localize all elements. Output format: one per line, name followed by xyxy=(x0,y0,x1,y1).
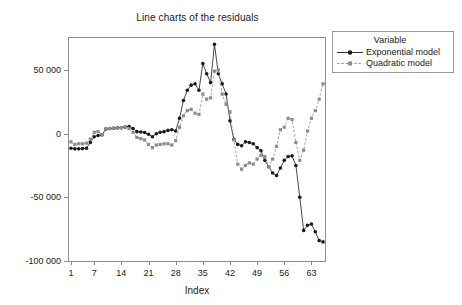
data-point xyxy=(104,128,107,131)
data-point xyxy=(283,126,286,129)
data-point xyxy=(89,138,92,141)
data-point xyxy=(240,168,243,171)
data-point xyxy=(135,130,139,134)
data-point xyxy=(310,222,314,226)
data-point xyxy=(213,43,217,47)
data-point xyxy=(290,154,294,158)
data-point xyxy=(209,96,212,99)
data-point xyxy=(189,83,193,87)
series-1 xyxy=(69,43,325,244)
circle-marker-icon xyxy=(337,48,363,57)
data-point xyxy=(318,98,321,101)
data-point xyxy=(108,127,111,130)
data-point xyxy=(294,141,297,144)
data-point xyxy=(162,130,166,134)
data-point xyxy=(151,135,155,139)
data-point xyxy=(321,82,324,85)
data-point xyxy=(317,239,321,243)
data-point xyxy=(182,99,186,103)
x-tick-mark xyxy=(203,261,204,265)
plot-area xyxy=(68,37,326,262)
data-point xyxy=(170,128,174,132)
data-point xyxy=(73,147,77,151)
x-tick-label: 56 xyxy=(279,268,289,278)
data-point xyxy=(154,132,158,136)
data-point xyxy=(244,140,248,144)
data-point xyxy=(279,166,283,170)
data-point xyxy=(197,88,201,92)
data-point xyxy=(263,155,266,158)
y-tick-mark xyxy=(64,261,68,262)
data-point xyxy=(256,157,259,160)
x-tick-label: 7 xyxy=(92,268,97,278)
x-tick-mark xyxy=(311,261,312,265)
data-point xyxy=(205,72,209,76)
data-point xyxy=(182,114,185,117)
data-point xyxy=(131,127,135,131)
data-point xyxy=(151,146,154,149)
data-point xyxy=(282,159,286,163)
x-tick-label: 42 xyxy=(225,268,235,278)
legend-title: Variable xyxy=(337,35,449,45)
data-point xyxy=(73,143,76,146)
data-point xyxy=(310,117,313,120)
data-point xyxy=(143,138,146,141)
data-point xyxy=(240,144,244,148)
y-tick-label: -100 000 xyxy=(25,256,61,266)
y-tick-mark xyxy=(64,197,68,198)
data-point xyxy=(298,159,301,162)
data-point xyxy=(77,147,81,151)
data-point xyxy=(85,146,89,150)
x-tick-mark xyxy=(71,261,72,265)
data-point xyxy=(205,98,208,101)
data-point xyxy=(306,129,309,132)
chart-root: Line charts of the residuals 50 0000-50 … xyxy=(0,0,462,305)
data-point xyxy=(306,224,310,228)
data-point xyxy=(197,113,200,116)
data-point xyxy=(259,149,263,153)
x-tick-label: 28 xyxy=(171,268,181,278)
series-canvas xyxy=(69,38,325,261)
data-point xyxy=(217,72,221,76)
data-point xyxy=(135,136,138,139)
data-point xyxy=(302,149,305,152)
series-2 xyxy=(69,68,324,171)
x-tick-label: 1 xyxy=(68,268,73,278)
data-point xyxy=(193,82,197,86)
data-point xyxy=(279,128,282,131)
data-point xyxy=(124,126,127,129)
data-point xyxy=(213,70,216,73)
data-point xyxy=(255,146,259,150)
data-point xyxy=(251,142,255,146)
data-point xyxy=(112,127,115,130)
legend-item-label: Quadratic model xyxy=(366,58,432,68)
data-point xyxy=(143,131,147,135)
data-point xyxy=(85,142,88,145)
data-point xyxy=(92,135,96,139)
y-tick-label: -50 000 xyxy=(30,192,61,202)
data-point xyxy=(228,110,231,113)
data-point xyxy=(81,142,84,145)
data-point xyxy=(314,109,317,112)
data-point xyxy=(139,137,142,140)
data-point xyxy=(166,129,170,133)
data-point xyxy=(186,88,190,92)
data-point xyxy=(147,143,150,146)
data-point xyxy=(166,142,169,145)
data-point xyxy=(69,140,72,143)
data-point xyxy=(232,138,235,141)
y-tick-label: 50 000 xyxy=(33,65,61,75)
data-point xyxy=(158,131,162,135)
data-point xyxy=(89,141,93,145)
data-point xyxy=(174,139,177,142)
legend-item-2[interactable]: Quadratic model xyxy=(337,58,449,68)
x-tick-mark xyxy=(176,261,177,265)
data-point xyxy=(96,130,99,133)
data-point xyxy=(162,142,165,145)
data-point xyxy=(287,117,290,120)
data-point xyxy=(139,130,143,134)
x-tick-mark xyxy=(230,261,231,265)
data-point xyxy=(96,134,100,138)
data-point xyxy=(190,108,193,111)
legend-item-1[interactable]: Exponential model xyxy=(337,47,449,57)
